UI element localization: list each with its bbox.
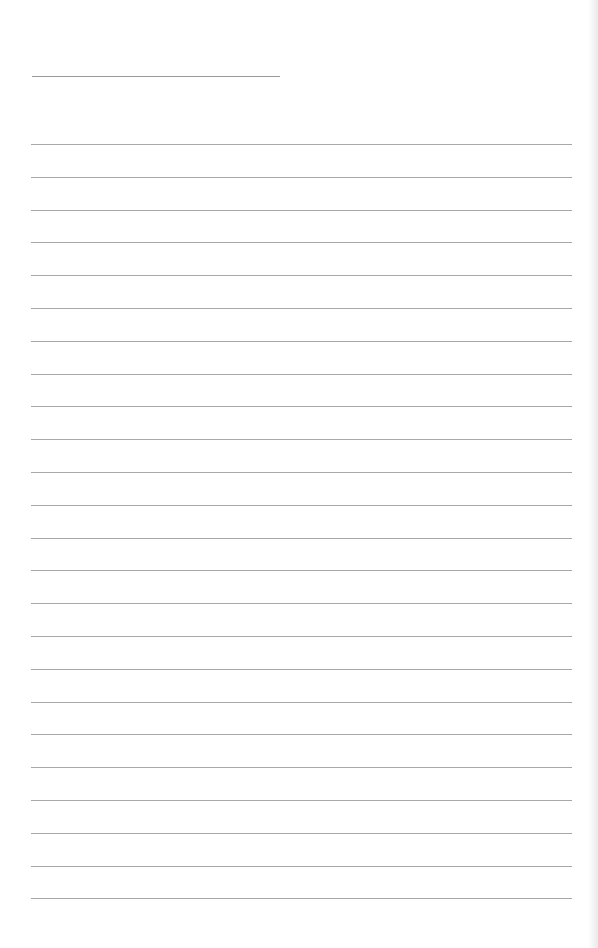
ruled-line — [31, 570, 572, 571]
ruled-line — [31, 767, 572, 768]
ruled-line — [31, 866, 572, 867]
ruled-line — [31, 177, 572, 178]
ruled-line — [31, 833, 572, 834]
ruled-line — [31, 800, 572, 801]
ruled-line — [31, 341, 572, 342]
name-line — [32, 76, 280, 77]
ruled-line — [31, 210, 572, 211]
ruled-line — [31, 538, 572, 539]
ruled-line — [31, 144, 572, 145]
ruled-line — [31, 439, 572, 440]
ruled-line — [31, 374, 572, 375]
ruled-line — [31, 505, 572, 506]
ruled-line — [31, 472, 572, 473]
ruled-line — [31, 702, 572, 703]
ruled-line — [31, 603, 572, 604]
page-edge-shadow — [588, 0, 598, 948]
ruled-line — [31, 275, 572, 276]
ruled-line — [31, 308, 572, 309]
ruled-line — [31, 242, 572, 243]
ruled-line — [31, 734, 572, 735]
ruled-line — [31, 898, 572, 899]
lined-paper-page — [0, 0, 598, 948]
ruled-line — [31, 406, 572, 407]
ruled-line — [31, 636, 572, 637]
ruled-line — [31, 669, 572, 670]
